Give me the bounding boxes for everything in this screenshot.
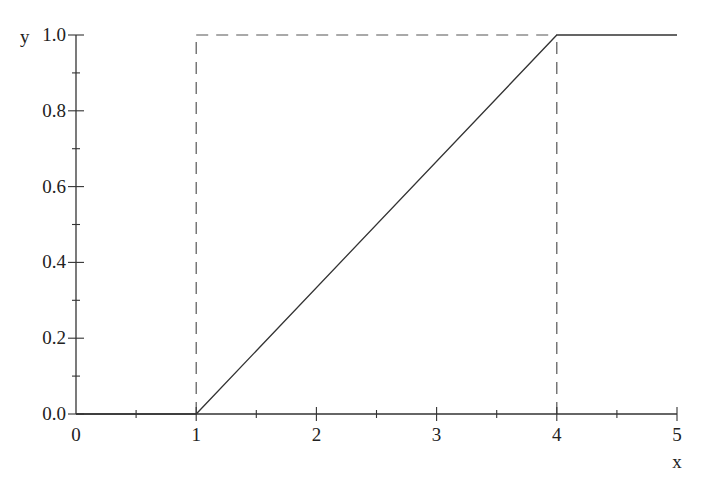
cdf-chart: 0123450.00.20.40.60.81.0yx (0, 0, 704, 499)
x-tick-label: 4 (552, 424, 562, 445)
y-tick-label: 0.4 (42, 251, 66, 272)
x-tick-label: 3 (432, 424, 442, 445)
y-tick-label: 0.8 (42, 100, 66, 121)
y-tick-label: 0.0 (42, 403, 66, 424)
y-tick-label: 1.0 (42, 24, 66, 45)
x-axis-label: x (672, 451, 682, 472)
x-tick-label: 5 (672, 424, 682, 445)
axis-labels: 0123450.00.20.40.60.81.0yx (20, 24, 682, 472)
y-tick-label: 0.2 (42, 327, 66, 348)
y-axis-label: y (20, 26, 30, 47)
cdf-line (76, 35, 677, 414)
x-tick-label: 0 (71, 424, 81, 445)
y-tick-label: 0.6 (42, 176, 66, 197)
x-tick-label: 2 (312, 424, 322, 445)
x-tick-label: 1 (191, 424, 201, 445)
data-series (76, 35, 677, 414)
